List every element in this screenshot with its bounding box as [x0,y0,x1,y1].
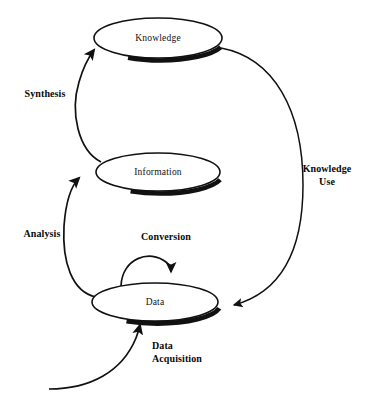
knowledge-use-label-line2: Use [319,176,335,187]
data-acquisition-label-line2: Acquisition [152,353,202,364]
synthesis-label: Synthesis [25,88,66,99]
edge-synthesis [75,50,101,162]
edge-analysis [64,178,96,297]
knowledge-cycle-diagram: Knowledge Information Data Synthesis Ana… [0,0,371,405]
data-acquisition-label-line1: Data [152,340,173,351]
edge-data-acquisition [49,325,140,389]
node-information[interactable]: Information [96,153,223,194]
information-label: Information [134,167,182,177]
diagram-canvas: Knowledge Information Data Synthesis Ana… [0,0,371,405]
data-acquisition-arrow [49,325,140,389]
node-knowledge[interactable]: Knowledge [94,18,225,61]
knowledge-use-label-line1: Knowledge [303,163,352,174]
analysis-arrow [64,178,96,297]
analysis-label: Analysis [24,228,61,239]
knowledge-label: Knowledge [135,33,181,43]
knowledge-use-label: Knowledge Use [303,163,352,187]
synthesis-arrow [75,50,101,162]
conversion-label: Conversion [141,231,191,242]
edge-conversion [121,256,171,286]
data-acquisition-label: Data Acquisition [152,340,202,364]
conversion-arrow [121,256,171,286]
edge-knowledge-use [221,48,303,305]
knowledge-use-arrow [221,48,303,305]
data-label: Data [146,297,165,307]
node-data[interactable]: Data [92,283,221,324]
